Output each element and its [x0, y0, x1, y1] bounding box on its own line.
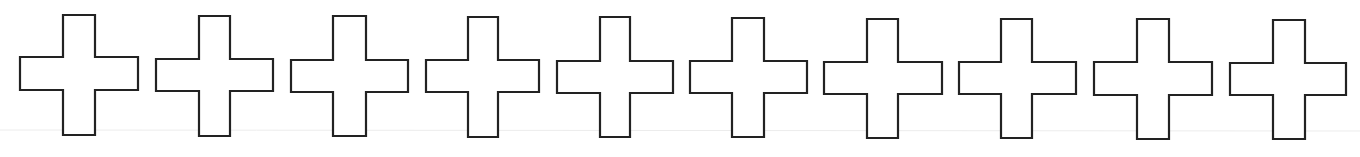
cross-icon-9 — [1094, 19, 1212, 139]
cross-shapes-figure — [0, 0, 1360, 157]
cross-icon-1 — [20, 15, 138, 135]
cross-icon-7 — [824, 19, 942, 138]
cross-icon-3 — [291, 16, 408, 136]
cross-icon-4 — [426, 17, 539, 137]
cross-icon-6 — [690, 18, 807, 137]
cross-icon-2 — [156, 16, 273, 136]
cross-row — [20, 15, 1346, 139]
cross-icon-8 — [959, 19, 1076, 138]
cross-icon-10 — [1230, 20, 1346, 139]
cross-icon-5 — [557, 17, 673, 137]
